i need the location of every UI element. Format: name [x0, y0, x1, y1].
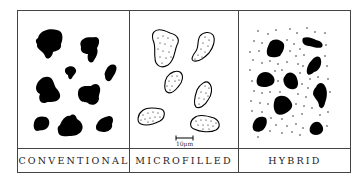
label-microfilled: MICROFILLED	[135, 155, 232, 166]
scale-bar: 10μm	[176, 136, 194, 149]
frame	[18, 11, 351, 173]
panel-conventional	[34, 29, 117, 136]
panel-microfilled	[138, 30, 219, 132]
scale-bar-label: 10μm	[176, 140, 194, 148]
label-conventional: CONVENTIONAL	[18, 155, 129, 166]
label-hybrid: HYBRID	[268, 155, 321, 166]
composite-filler-diagram: 10μm CONVENTIONAL MICROFILLED HYBRID	[0, 0, 361, 179]
panel-hybrid	[253, 37, 327, 135]
